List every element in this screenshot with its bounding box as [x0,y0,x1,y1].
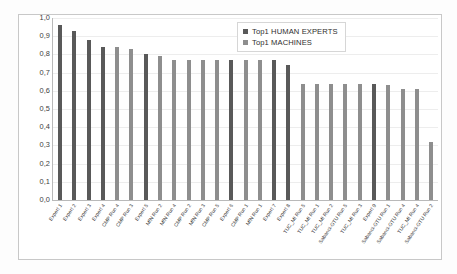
x-axis-category-labels: Expert 1Expert 2Expert 3Expert 4CMP Run … [52,201,437,271]
x-axis-label-slot: Expert 3 [81,201,95,271]
x-axis-label-slot: CMP Run 4 [109,201,123,271]
bar-slot [181,18,195,200]
bar-slot [167,18,181,200]
x-axis-label-slot: Expert 4 [95,201,109,271]
x-axis-label-slot: Sabanci-GTU Run 2 [423,201,437,271]
bar[interactable] [343,84,347,200]
bar[interactable] [72,31,76,200]
bar[interactable] [258,60,262,200]
bar[interactable] [329,84,333,200]
bar-slot [67,18,81,200]
y-axis-tick: 0,2 [39,160,50,167]
bar[interactable] [158,56,162,200]
x-axis-label-slot: Expert 2 [66,201,80,271]
x-axis-label-slot: CMP Run 2 [180,201,194,271]
y-axis-tick: 1,0 [39,14,50,21]
bar-slot [196,18,210,200]
bar[interactable] [129,49,133,200]
y-axis-tick-labels: 1,00,90,80,70,60,50,40,30,20,10,0 [24,18,50,200]
bar[interactable] [215,60,219,200]
x-axis-label-slot: Sabanci-GTU Run 5 [337,201,351,271]
x-axis-label-slot: CMP Run 3 [123,201,137,271]
y-axis-tick: 0,5 [39,105,50,112]
x-axis-label-slot: Expert 5 [138,201,152,271]
x-axis-label-slot: Expert 7 [266,201,280,271]
bar[interactable] [101,47,105,200]
bar-slot [410,18,424,200]
chart-figure: 1,00,90,80,70,60,50,40,30,20,10,0 Top1 H… [0,0,457,274]
bar[interactable] [386,85,390,200]
bar[interactable] [144,54,148,200]
y-axis-tick: 0,0 [39,196,50,203]
x-axis-label-slot: CMP Run 1 [237,201,251,271]
bar-slot [153,18,167,200]
bar[interactable] [201,60,205,200]
y-axis-tick: 0,8 [39,51,50,58]
x-axis-label-slot: MfN Run 1 [252,201,266,271]
y-axis-tick: 0,6 [39,87,50,94]
x-axis-label-slot: CMP Run 5 [209,201,223,271]
bar-slot [124,18,138,200]
x-axis-label-slot: MfN Run 3 [195,201,209,271]
x-axis-label-slot: MfN Run 4 [166,201,180,271]
x-axis-label-slot: Expert 6 [223,201,237,271]
bar-slot [395,18,409,200]
legend-swatch-icon [243,29,248,34]
legend-item[interactable]: Top1 MACHINES [243,37,338,48]
bar[interactable] [286,65,290,200]
bar-slot [110,18,124,200]
bar[interactable] [187,60,191,200]
y-axis-tick: 0,3 [39,142,50,149]
bar[interactable] [172,60,176,200]
bar[interactable] [415,89,419,200]
chart-legend: Top1 HUMAN EXPERTSTop1 MACHINES [237,22,346,52]
bar[interactable] [229,60,233,200]
bar[interactable] [315,84,319,200]
bar-slot [96,18,110,200]
bar-slot [82,18,96,200]
bar-slot [210,18,224,200]
y-axis-tick: 0,4 [39,123,50,130]
bar[interactable] [429,142,433,200]
legend-item-label: Top1 MACHINES [252,39,312,47]
bar-slot [53,18,67,200]
bar-slot [424,18,438,200]
x-axis-label-slot: Expert 8 [280,201,294,271]
bar-slot [353,18,367,200]
y-axis-tick: 0,9 [39,32,50,39]
bar[interactable] [272,60,276,200]
bar[interactable] [401,89,405,200]
x-axis-label-slot: TUC_MI Run 5 [295,201,309,271]
bar[interactable] [87,40,91,200]
bar[interactable] [301,84,305,200]
legend-swatch-icon [243,40,248,45]
bar[interactable] [115,47,119,200]
legend-item-label: Top1 HUMAN EXPERTS [252,28,338,36]
bar-slot [367,18,381,200]
bar[interactable] [244,60,248,200]
legend-item[interactable]: Top1 HUMAN EXPERTS [243,26,338,37]
y-axis-tick: 0,7 [39,69,50,76]
x-axis-label-slot: Expert 1 [52,201,66,271]
bar[interactable] [358,84,362,200]
bar-slot [139,18,153,200]
bar-slot [381,18,395,200]
y-axis-tick: 0,1 [39,178,50,185]
bar[interactable] [372,84,376,200]
x-axis-label-slot: MfN Run 2 [152,201,166,271]
bar[interactable] [58,25,62,200]
